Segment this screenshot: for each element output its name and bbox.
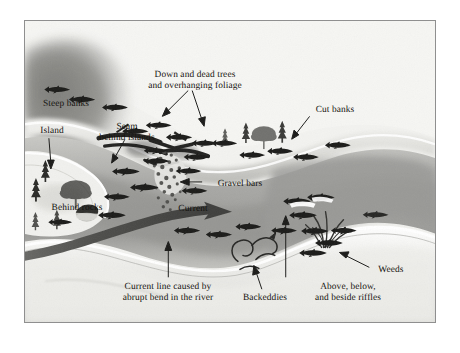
label-behind-rocks: Behind rocks xyxy=(41,203,113,214)
label-backeddies: Backeddies xyxy=(229,293,301,304)
label-down-and-dead-trees: Down and dead trees and overhanging foli… xyxy=(133,70,257,91)
label-seam-behind-islands: Seam behind islands xyxy=(87,122,167,143)
label-cut-banks: Cut banks xyxy=(305,105,365,116)
label-riffles: Above, below, and beside riffles xyxy=(293,282,403,303)
label-weeds: Weeds xyxy=(369,265,413,276)
label-steep-banks: Steep banks xyxy=(29,99,103,110)
label-island: Island xyxy=(27,126,77,137)
label-current: Current xyxy=(167,204,219,215)
river-scene-illustration xyxy=(25,21,435,322)
diagram-figure-frame: Steep banks Island Seam behind islands B… xyxy=(24,20,436,323)
label-current-line: Current line caused by abrupt bend in th… xyxy=(97,282,239,303)
label-gravel-bars: Gravel bars xyxy=(205,179,275,190)
